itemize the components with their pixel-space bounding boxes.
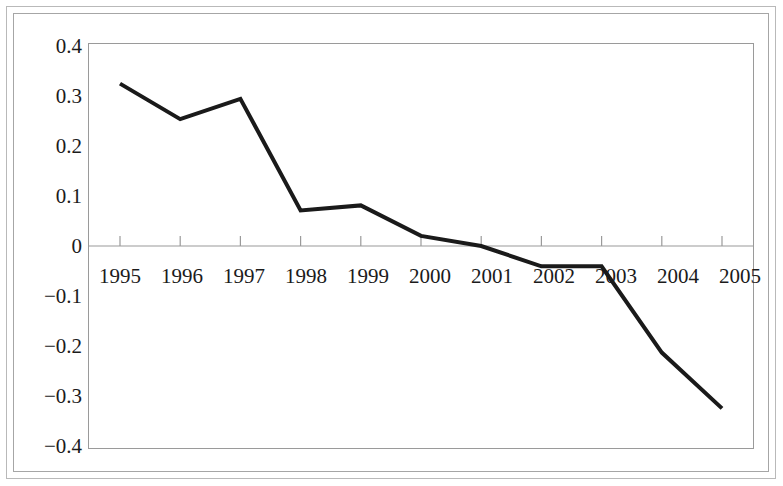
y-tick-label: −0.2	[8, 336, 82, 357]
y-tick-label: −0.1	[8, 286, 82, 307]
x-tick-label: 1999	[347, 266, 389, 287]
y-tick-label: 0.1	[8, 186, 82, 207]
x-tick-label: 1995	[99, 266, 141, 287]
chart-figure: 0.4 0.3 0.2 0.1 0 −0.1 −0.2 −0.3 −0.4 19…	[0, 0, 783, 486]
x-tick-label: 2002	[533, 266, 575, 287]
x-tick-label: 2004	[657, 266, 699, 287]
x-tick-label: 1996	[161, 266, 203, 287]
x-axis-tick-labels: 1995 1996 1997 1998 1999 2000 2001 2002 …	[88, 266, 754, 294]
x-tick-label: 1998	[285, 266, 327, 287]
y-tick-label: 0.4	[8, 36, 82, 57]
y-tick-label: 0	[8, 236, 82, 257]
x-tick-label: 2003	[595, 266, 637, 287]
x-tick-label: 2000	[409, 266, 451, 287]
y-tick-label: −0.3	[8, 386, 82, 407]
x-tick-label: 2001	[471, 266, 513, 287]
chart-plot-svg	[88, 43, 754, 449]
x-tick-label: 2005	[719, 266, 761, 287]
x-tick-label: 1997	[223, 266, 265, 287]
y-tick-label: −0.4	[8, 436, 82, 457]
y-tick-label: 0.2	[8, 136, 82, 157]
y-tick-label: 0.3	[8, 86, 82, 107]
y-axis-tick-labels: 0.4 0.3 0.2 0.1 0 −0.1 −0.2 −0.3 −0.4	[0, 0, 82, 486]
